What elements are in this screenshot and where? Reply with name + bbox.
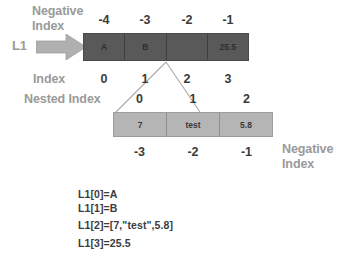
negative-index-top-label-line2: Index xyxy=(32,19,64,33)
outer-negative-index-0: -4 xyxy=(83,13,125,27)
pointer-arrow-icon xyxy=(36,34,86,60)
outer-list-cell-1: B xyxy=(125,34,166,60)
nested-index-row-label: Nested Index xyxy=(24,92,101,106)
outer-list-cell-2 xyxy=(167,34,208,60)
negative-index-top-label-line1: Negative xyxy=(32,4,83,18)
nested-negative-index-2: -1 xyxy=(220,145,273,159)
code-line-1: L1[1]=B xyxy=(78,202,118,214)
outer-index-1: 1 xyxy=(124,72,166,86)
outer-negative-index-3: -1 xyxy=(207,13,249,27)
variable-name-label: L1 xyxy=(12,39,27,54)
outer-list-bar: A B 25.5 xyxy=(83,33,249,61)
nested-negative-index-0: -3 xyxy=(113,145,166,159)
code-line-2: L1[2]=[7,"test",5.8] xyxy=(78,219,173,231)
outer-index-0: 0 xyxy=(83,72,125,86)
outer-list-cell-0: A xyxy=(84,34,125,60)
outer-index-2: 2 xyxy=(166,72,208,86)
nested-list-cell-2: 5.8 xyxy=(220,113,272,136)
index-row-label: Index xyxy=(33,72,65,86)
nested-list-cell-0: 7 xyxy=(114,113,167,136)
outer-negative-index-2: -2 xyxy=(166,13,208,27)
outer-list-cell-3: 25.5 xyxy=(208,34,248,60)
negative-index-bottom-label-line2: Index xyxy=(282,157,314,171)
code-line-0: L1[0]=A xyxy=(78,188,118,200)
list-index-diagram: Negative Index -4 -3 -2 -1 L1 A B 25.5 I… xyxy=(0,0,349,256)
negative-index-bottom-label-line1: Negative xyxy=(282,142,333,156)
nested-list-cell-1: test xyxy=(167,113,220,136)
code-line-3: L1[3]=25.5 xyxy=(78,237,131,249)
nested-index-1: 1 xyxy=(166,92,220,106)
outer-negative-index-1: -3 xyxy=(124,13,166,27)
nested-negative-index-1: -2 xyxy=(166,145,220,159)
nested-index-2: 2 xyxy=(220,92,273,106)
nested-list-bar: 7 test 5.8 xyxy=(113,112,273,137)
nested-index-0: 0 xyxy=(113,92,166,106)
outer-index-3: 3 xyxy=(207,72,249,86)
